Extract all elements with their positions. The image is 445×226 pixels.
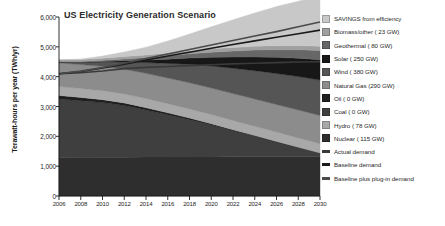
legend-item[interactable]: Biomass/other ( 23 GW) bbox=[322, 25, 444, 38]
legend-color-swatch-icon bbox=[322, 15, 330, 23]
legend-color-swatch-icon bbox=[322, 134, 330, 142]
legend-item[interactable]: Oil ( 0 GW) bbox=[322, 92, 444, 105]
legend-item-label: Biomass/other ( 23 GW) bbox=[334, 28, 399, 35]
legend-item[interactable]: Natural Gas (290 GW) bbox=[322, 78, 444, 91]
legend-item[interactable]: Wind ( 380 GW) bbox=[322, 65, 444, 78]
legend-line-swatch-icon bbox=[322, 163, 330, 166]
legend-color-swatch-icon bbox=[322, 41, 330, 49]
legend-line-swatch-icon bbox=[322, 177, 330, 180]
legend-item-label: Nuclear ( 115 GW) bbox=[334, 135, 384, 142]
legend-color-swatch-icon bbox=[322, 121, 330, 129]
chart-legend: SAVINGS from efficiencyBiomass/other ( 2… bbox=[322, 12, 444, 185]
legend-item-label: Hydro ( 78 GW) bbox=[334, 122, 377, 129]
area-band bbox=[59, 157, 320, 196]
legend-item[interactable]: Baseline demand bbox=[322, 158, 444, 171]
legend-item[interactable]: Coal ( 0 GW) bbox=[322, 105, 444, 118]
legend-item-label: Wind ( 380 GW) bbox=[334, 68, 378, 75]
legend-item-label: Baseline demand bbox=[334, 161, 381, 168]
legend-color-swatch-icon bbox=[322, 81, 330, 89]
legend-item[interactable]: Actual demand bbox=[322, 145, 444, 158]
legend-item[interactable]: Baseline plus plug-in demand bbox=[322, 172, 444, 185]
legend-color-swatch-icon bbox=[322, 94, 330, 102]
legend-item[interactable]: Hydro ( 78 GW) bbox=[322, 118, 444, 131]
legend-item-label: Solar ( 250 GW) bbox=[334, 55, 378, 62]
legend-item-label: SAVINGS from efficiency bbox=[334, 15, 401, 22]
legend-item[interactable]: SAVINGS from efficiency bbox=[322, 12, 444, 25]
legend-color-swatch-icon bbox=[322, 55, 330, 63]
legend-item-label: Baseline plus plug-in demand bbox=[334, 175, 414, 182]
legend-line-swatch-icon bbox=[322, 150, 330, 153]
legend-item[interactable]: Geothermal ( 80 GW) bbox=[322, 39, 444, 52]
legend-item-label: Natural Gas (290 GW) bbox=[334, 82, 395, 89]
legend-color-swatch-icon bbox=[322, 68, 330, 76]
legend-item[interactable]: Solar ( 250 GW) bbox=[322, 52, 444, 65]
legend-item-label: Coal ( 0 GW) bbox=[334, 108, 370, 115]
legend-item-label: Oil ( 0 GW) bbox=[334, 95, 364, 102]
chart-figure: US Electricity Generation Scenario Teraw… bbox=[0, 0, 445, 226]
legend-color-swatch-icon bbox=[322, 28, 330, 36]
legend-item-label: Geothermal ( 80 GW) bbox=[334, 42, 392, 49]
legend-item-label: Actual demand bbox=[334, 148, 375, 155]
legend-color-swatch-icon bbox=[322, 108, 330, 116]
legend-item[interactable]: Nuclear ( 115 GW) bbox=[322, 132, 444, 145]
